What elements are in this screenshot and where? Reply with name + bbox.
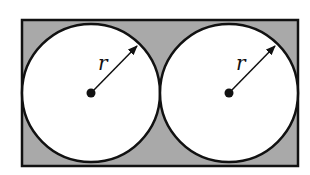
right-circle-group: r [160, 24, 298, 162]
two-circles-in-rectangle-diagram: r r [0, 0, 310, 175]
left-radius-label: r [98, 51, 109, 75]
left-circle-group: r [22, 24, 160, 162]
right-radius-label: r [236, 51, 247, 75]
